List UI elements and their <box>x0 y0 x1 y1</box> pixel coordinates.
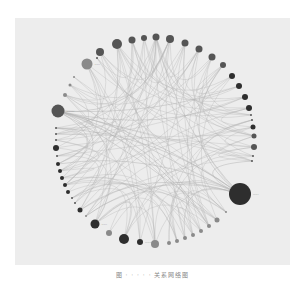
node-label: ······ <box>145 241 152 245</box>
edge <box>87 64 107 224</box>
node-label: ····· <box>253 193 259 197</box>
edge <box>155 189 240 244</box>
node <box>151 240 159 248</box>
node <box>73 76 75 78</box>
node <box>53 145 59 151</box>
node <box>63 93 67 97</box>
edge <box>70 85 217 220</box>
edge <box>87 64 140 242</box>
node <box>246 105 252 111</box>
edge <box>206 57 251 115</box>
node <box>252 155 254 157</box>
node <box>55 133 57 135</box>
node <box>66 190 70 194</box>
node <box>78 208 83 213</box>
edge <box>132 40 245 102</box>
node <box>252 134 257 139</box>
node <box>196 46 203 53</box>
node <box>91 220 100 229</box>
node <box>119 234 129 244</box>
node <box>175 239 179 243</box>
edge <box>169 120 252 243</box>
node <box>112 39 122 49</box>
node <box>229 183 251 205</box>
node <box>220 62 226 68</box>
edge <box>186 191 226 235</box>
node <box>251 144 257 150</box>
node-label: ······· <box>67 110 75 114</box>
node-label: ····· <box>95 63 101 67</box>
node <box>56 155 58 157</box>
node <box>199 229 203 233</box>
node <box>58 169 62 173</box>
node <box>183 236 187 240</box>
node <box>55 139 57 141</box>
node <box>71 197 73 199</box>
node <box>236 83 242 89</box>
node <box>96 48 104 56</box>
network-diagram: ···························· <box>0 0 305 282</box>
node <box>137 239 143 245</box>
node <box>129 37 136 44</box>
node <box>60 176 64 180</box>
node <box>209 54 216 61</box>
node <box>56 162 60 166</box>
node <box>74 202 76 204</box>
node-label: ····· <box>102 223 108 227</box>
node <box>182 40 189 47</box>
edge <box>87 64 140 242</box>
node <box>106 230 112 236</box>
node <box>69 84 72 87</box>
node <box>141 35 147 41</box>
node <box>96 57 98 59</box>
node <box>55 127 57 129</box>
node <box>82 59 93 70</box>
node <box>225 211 227 213</box>
node <box>52 105 65 118</box>
node <box>250 114 252 116</box>
node <box>167 241 171 245</box>
node <box>153 34 160 41</box>
node <box>191 233 195 237</box>
node <box>251 160 253 162</box>
node <box>229 73 235 79</box>
node <box>63 183 67 187</box>
node <box>85 215 87 217</box>
edge <box>156 37 240 194</box>
node <box>251 119 253 121</box>
node <box>215 218 220 223</box>
node <box>242 94 248 100</box>
node <box>251 125 256 130</box>
node <box>166 35 174 43</box>
node <box>207 224 211 228</box>
figure-caption: 图 · · · · · 关系网络图 <box>0 270 305 279</box>
